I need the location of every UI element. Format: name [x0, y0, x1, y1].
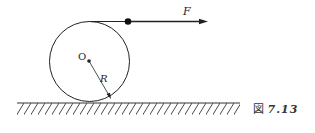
caption-number: 7.13	[268, 103, 299, 116]
attachment-point	[125, 18, 132, 25]
center-label: O	[78, 51, 86, 62]
force-arrow	[90, 18, 209, 25]
radius-label: R	[99, 73, 108, 84]
caption-prefix: 図	[253, 103, 264, 116]
ground	[0, 103, 260, 121]
figure-caption: 図 7.13	[253, 100, 298, 116]
force-label: F	[182, 5, 191, 18]
ground-hatching	[0, 103, 260, 121]
